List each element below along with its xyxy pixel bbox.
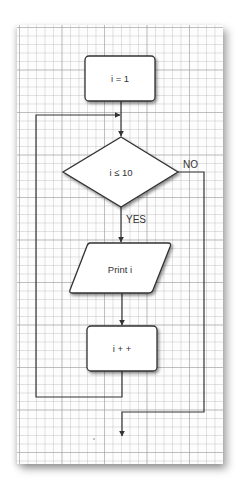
node-increment: i + +	[87, 326, 157, 371]
no-label: NO	[183, 159, 198, 170]
yes-label: YES	[126, 214, 146, 225]
flowchart-canvas: YES NO i = 1 i ≤ 10 Print i i + +	[0, 0, 246, 491]
node-condition: i ≤ 10	[63, 137, 178, 207]
node-condition-label: i ≤ 10	[109, 167, 132, 178]
node-increment-label: i + +	[113, 343, 132, 354]
edge-yes: YES	[121, 207, 146, 242]
paper-speck	[93, 438, 95, 440]
node-print-label: Print i	[108, 264, 132, 275]
node-print: Print i	[70, 243, 171, 293]
node-init: i = 1	[85, 56, 155, 101]
edge-no: NO	[122, 159, 204, 436]
node-init-label: i = 1	[111, 73, 129, 84]
